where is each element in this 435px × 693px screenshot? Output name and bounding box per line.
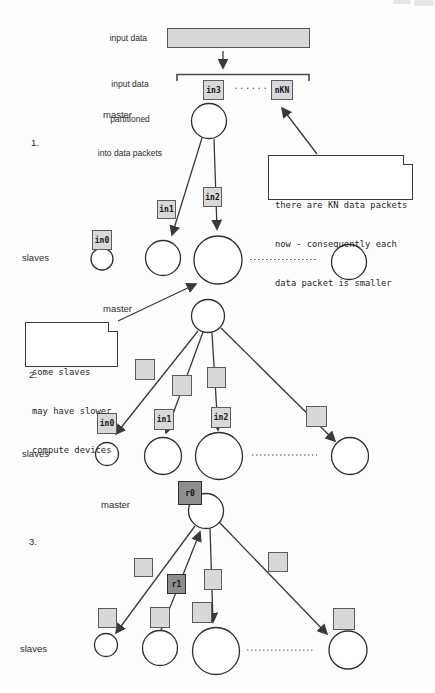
packet-s2-unlabeled-c [207,367,226,388]
arrow-master1-to-slave2 [172,138,202,235]
packet-s3-unlabeled-i [192,602,212,623]
partition-caption-line3: into data packets [88,148,172,160]
note-slow-line2: may have slower [32,405,117,418]
packet-s2-unlabeled-d [306,406,327,427]
master-label-1: master [103,109,132,120]
slave-node-1-2 [146,241,181,276]
note-fold-icon [108,322,118,332]
packet-s2-unlabeled-b [172,375,192,396]
scan-artifact [414,0,434,6]
slave-node-1-1 [91,248,113,270]
note-slow-line1: some slaves [32,366,117,379]
arrow-master1-to-slave3 [214,139,217,229]
master-node-2 [192,300,225,333]
slave-node-2-4 [332,438,369,475]
packet-s3-unlabeled-e [134,558,153,577]
master-label-3: master [101,499,130,510]
packet-s3-unlabeled-h [204,569,222,590]
packet-s3-unlabeled-f [98,608,117,628]
slave-node-1-3 [194,236,242,284]
note-slow-slaves: some slaves may have slower compute devi… [25,322,118,367]
step-number-3: 3. [29,536,37,547]
note-kn-line3: data packet is smaller [275,277,412,290]
slave-node-3-4 [329,631,367,669]
slaves-label-1: slaves [22,252,49,263]
arrow-note-to-nKN [282,108,317,154]
note-kn-packets: there are KN data packets now - conseque… [268,155,413,200]
partition-caption-line1: input data [88,79,172,91]
slave-node-3-2 [143,631,178,666]
slaves-label-3: slaves [20,643,47,654]
packet-s1-in2: in2 [203,187,222,207]
packet-s3-unlabeled-j [268,552,288,572]
packet-s2-in2: in2 [211,407,231,428]
packet-s2-in1: in1 [154,409,174,430]
slave-node-2-2 [145,438,182,475]
packet-in3: in3 [203,80,224,100]
packet-ellipsis: ...... [233,82,269,91]
note-fold-icon [403,155,413,165]
scan-artifact [393,0,411,4]
figure-master-slave-diagram: input data input data partitioned into d… [0,0,435,693]
packet-s2-unlabeled-a [135,359,155,380]
result-r1: r1 [167,574,186,594]
input-data-label: input data [95,33,147,45]
slave-node-3-3 [193,628,240,675]
packet-s3-unlabeled-k [333,608,355,630]
note-slow-line3: compute devices [32,444,117,457]
packet-s1-in1: in1 [157,200,176,219]
packet-nKN: nKN [271,80,293,100]
result-r0: r0 [178,481,202,505]
packet-s3-unlabeled-g [150,607,170,628]
slave-node-2-3 [196,433,243,480]
master-node-1 [192,104,227,139]
slave-node-3-1 [95,634,118,657]
packet-s1-in0: in0 [92,230,112,250]
step-number-1: 1. [31,137,39,148]
master-label-2: master [103,303,132,314]
note-kn-line2: now - consequently each [275,238,412,251]
note-kn-line1: there are KN data packets [275,199,412,212]
input-data-bar [167,28,310,48]
arrow-master3-to-slave4 [219,522,327,634]
